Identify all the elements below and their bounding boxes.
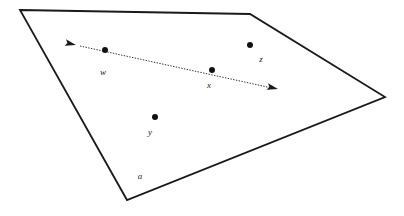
point-label-y: y [147, 127, 152, 137]
diagram-canvas: w x y z a [0, 0, 404, 216]
point-label-w: w [100, 67, 106, 77]
point-dot-w [102, 47, 108, 53]
point-label-z: z [258, 54, 263, 64]
point-dot-x [209, 67, 215, 73]
region-label-a: a [138, 171, 143, 181]
point-dot-y [152, 114, 158, 120]
point-dot-z [247, 42, 253, 48]
region-polygon-a [20, 10, 385, 200]
geometry-diagram: w x y z a [0, 0, 404, 216]
point-label-x: x [206, 80, 211, 90]
